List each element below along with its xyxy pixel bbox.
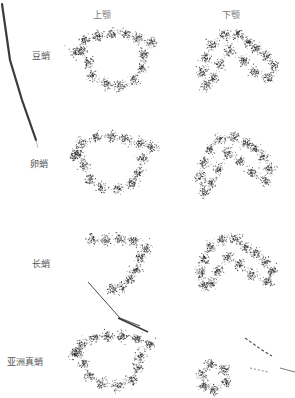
landmark-scatter-panel	[62, 125, 172, 215]
landmark-scatter-panel	[62, 320, 172, 398]
landmark-scatter-panel	[190, 20, 295, 110]
row-label-long-octopus: 长蛸	[32, 257, 50, 270]
landmark-scatter-panel	[190, 125, 295, 215]
landmark-scatter-panel	[190, 320, 295, 398]
row-label-short-octopus: 豆蛸	[32, 49, 50, 62]
row-label-egg-octopus: 卵蛸	[30, 157, 48, 170]
landmark-scatter-panel	[62, 20, 172, 110]
landmark-scatter-panel	[190, 225, 295, 315]
row-label-asian-octopus: 亚洲真蛸	[7, 355, 43, 368]
landmark-scatter-panel	[62, 225, 172, 315]
